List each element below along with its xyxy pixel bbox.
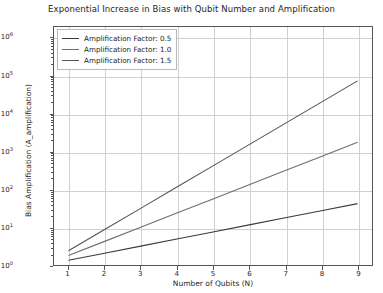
x-tick-label: 1 <box>65 270 69 278</box>
x-tick-mark <box>68 266 69 270</box>
legend-item[interactable]: Amplification Factor: 0.5 <box>62 33 171 44</box>
x-tick-mark <box>177 266 178 270</box>
legend-line-swatch <box>62 38 79 39</box>
y-tick-label: 103 <box>1 148 13 156</box>
y-tick-minor <box>51 230 53 231</box>
y-tick-minor <box>51 192 53 193</box>
y-tick-mark <box>50 228 54 229</box>
x-tick-mark <box>286 266 287 270</box>
legend-item[interactable]: Amplification Factor: 1.5 <box>62 55 171 66</box>
y-tick-minor <box>51 172 53 173</box>
x-tick-mark <box>104 266 105 270</box>
legend-item[interactable]: Amplification Factor: 1.0 <box>62 44 171 55</box>
y-tick-minor <box>51 198 53 199</box>
legend-label: Amplification Factor: 1.5 <box>84 55 171 66</box>
y-tick-minor <box>51 115 53 116</box>
y-tick-minor <box>51 102 53 103</box>
y-tick-mark <box>50 152 54 153</box>
y-tick-minor <box>51 41 53 42</box>
y-tick-minor <box>51 57 53 58</box>
x-tick-label: 2 <box>102 270 106 278</box>
y-tick-minor <box>51 53 53 54</box>
y-tick-minor <box>51 178 53 179</box>
y-tick-minor <box>51 167 53 168</box>
y-tick-minor <box>51 125 53 126</box>
y-tick-minor <box>51 129 53 130</box>
y-tick-minor <box>51 77 53 78</box>
data-series-line-0 <box>68 204 357 261</box>
y-tick-minor <box>51 81 53 82</box>
y-tick-minor <box>51 236 53 237</box>
y-tick-minor <box>51 117 53 118</box>
y-tick-minor <box>51 196 53 197</box>
x-tick-mark <box>249 266 250 270</box>
y-tick-minor <box>51 140 53 141</box>
y-tick-minor <box>51 194 53 195</box>
y-tick-minor <box>51 160 53 161</box>
y-tick-minor <box>51 158 53 159</box>
legend-line-swatch <box>62 60 79 61</box>
chart-figure: Exponential Increase in Bias with Qubit … <box>0 0 383 293</box>
y-tick-mark <box>50 37 54 38</box>
y-tick-minor <box>51 122 53 123</box>
y-tick-minor <box>51 91 53 92</box>
y-tick-minor <box>51 234 53 235</box>
chart-legend: Amplification Factor: 0.5Amplification F… <box>57 29 177 70</box>
x-tick-label: 8 <box>320 270 324 278</box>
y-tick-label: 102 <box>1 186 13 194</box>
data-series-line-2 <box>68 81 357 251</box>
data-series-line-1 <box>68 142 357 255</box>
chart-title: Exponential Increase in Bias with Qubit … <box>0 4 383 14</box>
x-tick-label: 3 <box>138 270 142 278</box>
legend-label: Amplification Factor: 1.0 <box>84 44 171 55</box>
y-tick-minor <box>51 49 53 50</box>
x-tick-mark <box>322 266 323 270</box>
y-tick-minor <box>51 153 53 154</box>
y-tick-minor <box>51 39 53 40</box>
y-tick-minor <box>51 255 53 256</box>
y-tick-minor <box>51 95 53 96</box>
legend-line-swatch <box>62 49 79 50</box>
x-tick-label: 5 <box>211 270 215 278</box>
x-tick-label: 4 <box>174 270 178 278</box>
y-axis-label: Bias Amplification (A_amplification) <box>24 51 33 251</box>
legend-label: Amplification Factor: 0.5 <box>84 33 171 44</box>
y-tick-minor <box>51 248 53 249</box>
y-tick-minor <box>51 87 53 88</box>
y-tick-minor <box>51 79 53 80</box>
y-tick-mark <box>50 76 54 77</box>
y-tick-label: 104 <box>1 110 13 118</box>
y-tick-minor <box>51 163 53 164</box>
y-tick-minor <box>51 120 53 121</box>
y-tick-minor <box>51 232 53 233</box>
y-tick-mark <box>50 190 54 191</box>
y-tick-label: 105 <box>1 72 13 80</box>
x-tick-mark <box>358 266 359 270</box>
y-tick-minor <box>51 243 53 244</box>
x-tick-label: 7 <box>283 270 287 278</box>
y-tick-mark <box>50 266 54 267</box>
x-tick-mark <box>140 266 141 270</box>
x-axis-label: Number of Qubits (N) <box>53 279 373 288</box>
y-tick-minor <box>51 46 53 47</box>
y-tick-minor <box>51 239 53 240</box>
y-tick-minor <box>51 210 53 211</box>
y-tick-minor <box>51 201 53 202</box>
y-tick-mark <box>50 114 54 115</box>
y-tick-minor <box>51 205 53 206</box>
y-tick-minor <box>51 155 53 156</box>
x-tick-label: 9 <box>356 270 360 278</box>
y-tick-minor <box>51 84 53 85</box>
y-tick-minor <box>51 134 53 135</box>
y-tick-label: 101 <box>1 224 13 232</box>
x-tick-mark <box>213 266 214 270</box>
x-tick-label: 6 <box>247 270 251 278</box>
y-tick-minor <box>51 43 53 44</box>
y-tick-minor <box>51 64 53 65</box>
y-tick-minor <box>51 216 53 217</box>
y-tick-label: 106 <box>1 33 13 41</box>
